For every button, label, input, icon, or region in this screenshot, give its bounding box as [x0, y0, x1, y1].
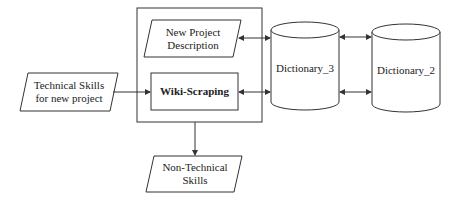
wiki-scraping-label: Wiki-Scraping [151, 73, 238, 110]
non-technical-skills-label: Non-Technical Skills [160, 157, 230, 191]
dictionary-3-label: Dictionary_3 [271, 60, 339, 76]
new-project-description-label: New Project Description [160, 21, 226, 56]
dictionary-2-label: Dictionary_2 [372, 62, 440, 78]
technical-skills-label: Technical Skills for new project [32, 74, 106, 110]
